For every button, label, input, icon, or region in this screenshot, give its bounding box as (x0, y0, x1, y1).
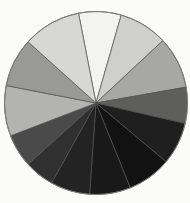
pie-chart (0, 0, 190, 203)
scanned-pie-figure (0, 0, 190, 203)
